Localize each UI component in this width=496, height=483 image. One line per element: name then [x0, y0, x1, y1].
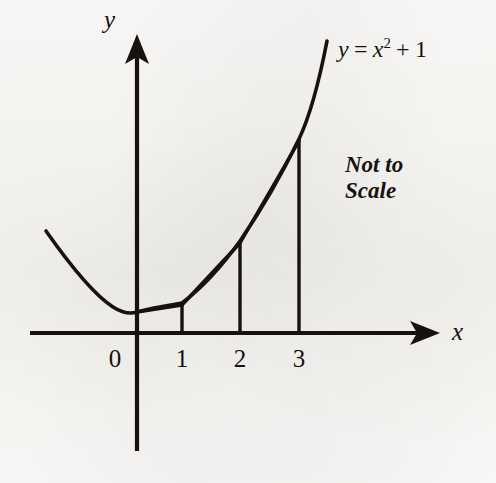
not-to-scale-note: Not to Scale — [345, 152, 403, 204]
tick-label-1: 1 — [169, 345, 195, 373]
tick-label-3: 3 — [286, 345, 312, 373]
x-axis-label: x — [452, 318, 463, 346]
equation-constant: 1 — [415, 36, 427, 62]
equation-plus: + — [396, 36, 410, 62]
equation-lhs: y — [338, 36, 349, 62]
y-axis-label: y — [104, 6, 115, 34]
equation-label: y=x2+1 — [338, 36, 427, 63]
tick-label-2: 2 — [227, 345, 253, 373]
plot-canvas — [0, 0, 496, 483]
note-line-1: Not to — [345, 152, 403, 178]
equation-base: x — [373, 36, 384, 62]
figure-container: y x y=x2+1 Not to Scale 0 1 2 3 — [0, 0, 496, 483]
equation-exponent: 2 — [383, 35, 390, 51]
parabola-curve — [46, 41, 327, 313]
equation-equals: = — [354, 36, 368, 62]
tick-label-0: 0 — [102, 345, 128, 373]
note-line-2: Scale — [345, 178, 403, 204]
